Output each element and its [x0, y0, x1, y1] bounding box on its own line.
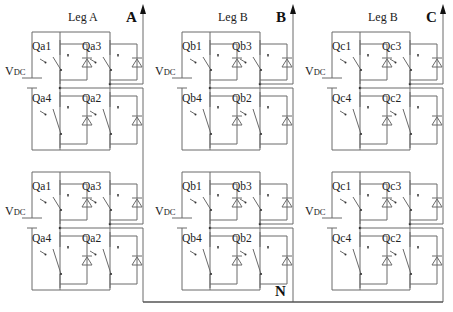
- switch-label: Qc3: [382, 40, 401, 52]
- igbt-switch: Qc3: [382, 180, 442, 224]
- output-arrow-icon: [440, 4, 446, 14]
- dc-source-icon: [322, 78, 342, 88]
- dc-source-icon: [172, 218, 192, 228]
- switch-label: Qc4: [332, 232, 351, 244]
- phase-output-label: C: [426, 9, 437, 25]
- switch-label: Qa2: [82, 232, 101, 244]
- switch-label: Qc2: [382, 92, 401, 104]
- igbt-switch: Qa3: [82, 40, 142, 84]
- dc-source-label: VDC: [5, 64, 26, 78]
- phase-b: Leg BB: [210, 4, 296, 302]
- switch-label: Qa3: [82, 40, 101, 52]
- switch-label: Qb2: [232, 92, 252, 104]
- leg-label: Leg B: [368, 10, 398, 24]
- h-bridge-cell: VDCQa1Qa3Qa4Qa2: [5, 32, 142, 150]
- phase-c: Leg BC: [360, 4, 446, 302]
- phase-a: Leg AA: [60, 4, 146, 302]
- igbt-switch: Qb3: [232, 40, 292, 84]
- switch-label: Qa1: [32, 40, 51, 52]
- switch-label: Qb3: [232, 180, 252, 192]
- switch-label: Qc3: [382, 180, 401, 192]
- switch-label: Qa2: [82, 92, 101, 104]
- switch-label: Qb2: [232, 232, 252, 244]
- igbt-switch: Qc3: [382, 40, 442, 84]
- dc-source-label: VDC: [5, 204, 26, 218]
- h-bridge-cell: VDCQc1Qc3Qc4Qc2: [305, 32, 442, 150]
- h-bridge-cell: VDCQb1Qb3Qb4Qb2: [155, 32, 292, 150]
- circuit-canvas: VDCQa1Qa3Qa4Qa2VDCQa1Qa3Qa4Qa2Leg AAVDCQ…: [0, 0, 453, 312]
- inverter-diagram: VDCQa1Qa3Qa4Qa2VDCQa1Qa3Qa4Qa2Leg AAVDCQ…: [0, 0, 453, 312]
- igbt-switch: Qb2: [232, 232, 292, 288]
- switch-label: Qc2: [382, 232, 401, 244]
- h-bridge-cell: VDCQa1Qa3Qa4Qa2: [5, 172, 142, 290]
- dc-source-label: VDC: [305, 204, 326, 218]
- igbt-switch: Qa3: [82, 180, 142, 224]
- switch-label: Qb1: [182, 40, 202, 52]
- switch-label: Qa4: [32, 232, 51, 244]
- leg-label: Leg B: [218, 10, 248, 24]
- h-bridge-cell: VDCQc1Qc3Qc4Qc2: [305, 172, 442, 290]
- dc-source-label: VDC: [305, 64, 326, 78]
- switch-label: Qb1: [182, 180, 202, 192]
- switch-label: Qc1: [332, 40, 351, 52]
- phase-output-label: B: [276, 9, 286, 25]
- switch-label: Qb4: [182, 92, 202, 104]
- dc-source-icon: [22, 218, 42, 228]
- switch-label: Qa3: [82, 180, 101, 192]
- h-bridge-cell: VDCQb1Qb3Qb4Qb2: [155, 172, 292, 290]
- phase-output-label: A: [126, 9, 137, 25]
- dc-source-icon: [22, 78, 42, 88]
- switch-label: Qb4: [182, 232, 202, 244]
- igbt-switch: Qb3: [232, 180, 292, 224]
- switch-label: Qb3: [232, 40, 252, 52]
- output-arrow-icon: [290, 4, 296, 14]
- leg-label: Leg A: [68, 10, 98, 24]
- switch-label: Qa1: [32, 180, 51, 192]
- dc-source-icon: [172, 78, 192, 88]
- dc-source-label: VDC: [155, 204, 176, 218]
- igbt-switch: Qb2: [232, 92, 292, 148]
- output-arrow-icon: [140, 4, 146, 14]
- igbt-switch: Qa2: [82, 92, 142, 148]
- dc-source-icon: [322, 218, 342, 228]
- neutral-label: N: [275, 283, 286, 299]
- switch-label: Qc1: [332, 180, 351, 192]
- igbt-switch: Qa2: [82, 232, 142, 288]
- igbt-switch: Qc2: [382, 92, 442, 148]
- igbt-switch: Qc2: [382, 232, 442, 288]
- dc-source-label: VDC: [155, 64, 176, 78]
- switch-label: Qc4: [332, 92, 351, 104]
- switch-label: Qa4: [32, 92, 51, 104]
